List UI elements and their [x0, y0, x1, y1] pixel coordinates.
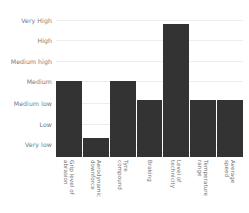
x-tick-aerodynamic-downforce: Aerodynamic downforce: [89, 160, 102, 197]
x-tick-line-1: Average: [230, 160, 236, 183]
bar-chart: Very High High Medium high Medium Medium…: [0, 0, 249, 213]
x-tick-cell-3: Braking: [137, 159, 163, 213]
x-tick-line-1: Temperature: [204, 160, 210, 196]
bar-average-speed: [217, 100, 243, 157]
x-tick-line-1: Braking: [147, 160, 153, 182]
bar-grip-level-of-abrasion: [56, 81, 82, 157]
x-tick-temperature-range: Temperature range: [197, 160, 210, 196]
x-tick-line-1: Level of: [177, 160, 183, 182]
y-tick-medium-high: Medium high: [0, 58, 52, 65]
y-tick-medium-low: Medium low: [0, 100, 52, 107]
bar-temperature-range: [190, 100, 216, 157]
bar-level-of-technicity: [163, 24, 189, 157]
x-tick-cell-5: Temperature range: [190, 159, 216, 213]
x-tick-cell-4: Level of technicity: [163, 159, 189, 213]
x-tick-cell-2: Tyre compound: [110, 159, 136, 213]
x-tick-braking: Braking: [146, 160, 152, 182]
bar-aerodynamic-downforce: [83, 138, 109, 157]
x-tick-grip-level-of-abrasion: Grip level of abrasion: [63, 160, 76, 195]
x-tick-line-2: range: [197, 160, 203, 196]
y-tick-high: High: [0, 37, 52, 44]
y-tick-medium: Medium: [0, 78, 52, 85]
x-tick-average-speed: Average speed: [224, 160, 237, 183]
x-tick-cell-6: Average speed: [217, 159, 243, 213]
x-axis-tick-labels: Grip level of abrasion Aerodynamic downf…: [56, 159, 243, 213]
y-tick-low: Low: [0, 121, 52, 128]
y-tick-very-low: Very low: [0, 141, 52, 148]
bar-braking: [137, 100, 163, 157]
bar-tyre-compound: [110, 81, 136, 157]
bar-series: [56, 14, 243, 157]
x-tick-line-2: speed: [224, 160, 230, 183]
x-tick-line-2: compound: [116, 160, 122, 190]
x-tick-line-1: Tyre: [123, 160, 129, 172]
x-tick-cell-0: Grip level of abrasion: [56, 159, 82, 213]
x-tick-line-2: abrasion: [63, 160, 69, 195]
x-tick-line-2: downforce: [89, 160, 95, 197]
x-tick-cell-1: Aerodynamic downforce: [83, 159, 109, 213]
x-tick-level-of-technicity: Level of technicity: [170, 160, 183, 188]
y-tick-very-high: Very High: [0, 17, 52, 24]
plot-area: [56, 14, 243, 157]
x-tick-line-1: Aerodynamic: [96, 160, 102, 197]
x-tick-line-2: technicity: [170, 160, 176, 188]
x-tick-line-1: Grip level of: [69, 160, 75, 195]
x-tick-tyre-compound: Tyre compound: [116, 160, 129, 190]
